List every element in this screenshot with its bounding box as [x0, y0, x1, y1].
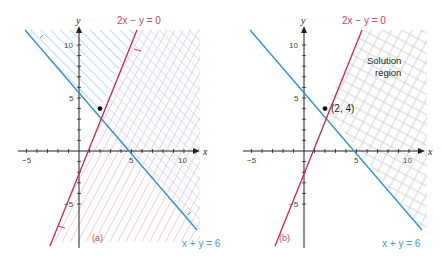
y-tick-label-5: 5: [69, 94, 74, 103]
intersection-point: [323, 106, 328, 111]
blue-line-label: x + y = 6: [182, 238, 221, 249]
y-axis-arrow: [301, 26, 307, 33]
y-axis-label: y: [300, 15, 306, 26]
y-axis-label: y: [75, 15, 81, 26]
red-line-label: 2x − y = 0: [342, 15, 386, 26]
y-tick-label-10: 10: [64, 41, 73, 50]
y-axis-arrow: [76, 26, 82, 33]
x-tick-label-neg5: −5: [247, 156, 257, 165]
solution-region-label-line2: region: [375, 67, 401, 78]
solution-region-label-line1: Solution: [367, 55, 401, 66]
x-tick-label-5: 5: [354, 156, 359, 165]
intersection-label: (2, 4): [331, 103, 354, 114]
y-tick-label-10: 10: [289, 41, 298, 50]
x-axis-label: x: [427, 146, 433, 157]
x-tick-label-neg5: −5: [22, 156, 32, 165]
inequality-graphs: −5 5 10 10 5 −5 x y 2x − y = 0 x + y = 6…: [0, 0, 441, 256]
panel-a: −5 5 10 10 5 −5 x y 2x − y = 0 x + y = 6…: [18, 15, 221, 249]
x-tick-label-10: 10: [403, 156, 412, 165]
blue-line-label: x + y = 6: [382, 238, 421, 249]
panel-b: −5 5 10 10 5 −5 x y (2, 4) Solution regi…: [243, 15, 433, 249]
x-tick-label-5: 5: [129, 156, 134, 165]
panel-caption: (a): [92, 233, 103, 243]
y-tick-label-5: 5: [294, 94, 299, 103]
intersection-point: [98, 106, 103, 111]
x-axis-label: x: [202, 146, 208, 157]
x-tick-label-10: 10: [178, 156, 187, 165]
panel-caption: (b): [279, 233, 290, 243]
red-line-label: 2x − y = 0: [117, 15, 161, 26]
